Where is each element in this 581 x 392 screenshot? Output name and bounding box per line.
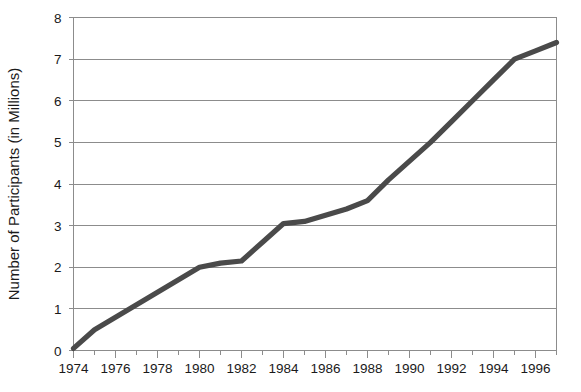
tick-marks [69,18,557,358]
x-tick-label: 1996 [520,361,550,376]
y-tick-label: 0 [54,344,62,359]
gridlines [74,59,557,309]
y-tick-label: 8 [54,11,62,26]
x-tick-label: 1978 [142,361,172,376]
x-tick-label: 1992 [436,361,466,376]
x-tick-label: 1982 [226,361,256,376]
y-tick-label: 5 [54,135,62,150]
line-chart: 012345678 197419761978198019821984198619… [0,0,581,392]
x-tick-label: 1974 [58,361,89,376]
y-tick-label: 7 [54,52,62,67]
x-tick-label: 1990 [394,361,424,376]
x-tick-label: 1994 [478,361,509,376]
y-tick-label: 2 [54,260,62,275]
y-tick-label: 6 [54,94,62,109]
x-tick-label: 1980 [184,361,214,376]
x-tick-label: 1976 [100,361,130,376]
x-tick-label: 1984 [268,361,299,376]
y-axis-title: Number of Participants (in Millions) [5,68,22,301]
y-tick-label: 3 [54,219,62,234]
x-tick-label: 1986 [310,361,340,376]
x-axis-tick-labels: 1974197619781980198219841986198819901992… [58,361,550,376]
y-tick-label: 4 [54,177,62,192]
data-series-line [74,42,557,348]
x-tick-label: 1988 [352,361,382,376]
y-axis-tick-labels: 012345678 [54,11,62,359]
y-tick-label: 1 [54,302,62,317]
chart-canvas: 012345678 197419761978198019821984198619… [0,0,581,392]
